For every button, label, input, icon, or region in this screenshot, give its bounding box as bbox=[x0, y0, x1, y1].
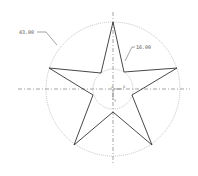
inner-dimension-leader bbox=[125, 47, 135, 61]
origin-marker: + bbox=[111, 85, 113, 89]
outer-diameter-dimension[interactable]: 43.00 bbox=[19, 29, 34, 35]
outer-dimension-leader bbox=[37, 32, 57, 45]
x-axis-label: X bbox=[123, 85, 126, 89]
star-sketch-drawing: 43.00 16.00 X Y + bbox=[0, 0, 198, 176]
inner-diameter-dimension[interactable]: 16.00 bbox=[136, 44, 151, 50]
y-axis-label: Y bbox=[114, 99, 117, 103]
